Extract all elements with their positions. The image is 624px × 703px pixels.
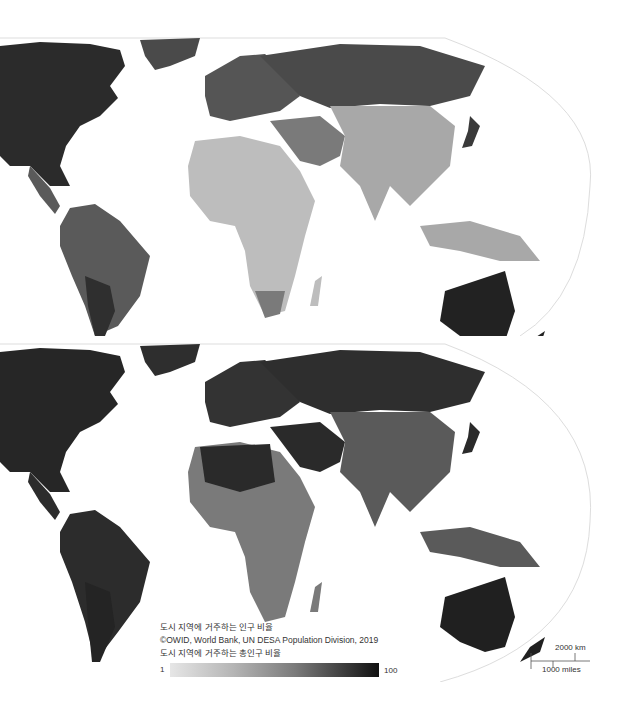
region-asia (330, 412, 455, 527)
region-se-asia-islands (420, 221, 540, 261)
legend-min-label: 1 (160, 665, 164, 674)
region-asia (330, 106, 455, 221)
region-madagascar (310, 276, 322, 306)
legend-colorbar-row: 1 100 (160, 663, 420, 677)
region-north-america (0, 42, 125, 186)
region-se-asia-islands (420, 527, 540, 567)
legend-subtitle: 도시 지역에 거주하는 총인구 비율 (160, 647, 420, 660)
region-australia (440, 271, 515, 336)
region-japan (462, 422, 480, 454)
legend-title: 도시 지역에 거주하는 인구 비율 (160, 621, 420, 634)
legend-source: ©OWID, World Bank, UN DESA Population Di… (160, 634, 420, 647)
world-map-top (0, 36, 624, 336)
map-top (0, 36, 624, 336)
region-north-america (0, 348, 125, 492)
region-africa (188, 136, 315, 316)
region-japan (462, 116, 480, 148)
region-australia (440, 577, 515, 652)
region-greenland (140, 38, 200, 70)
region-greenland (140, 344, 200, 376)
region-madagascar (310, 582, 322, 612)
scale-bar: 2000 km 1000 miles (528, 643, 598, 688)
legend: 도시 지역에 거주하는 인구 비율 ©OWID, World Bank, UN … (160, 621, 420, 677)
legend-max-label: 100 (384, 666, 397, 675)
scale-miles-label: 1000 miles (542, 665, 581, 674)
legend-colorbar (170, 663, 379, 677)
